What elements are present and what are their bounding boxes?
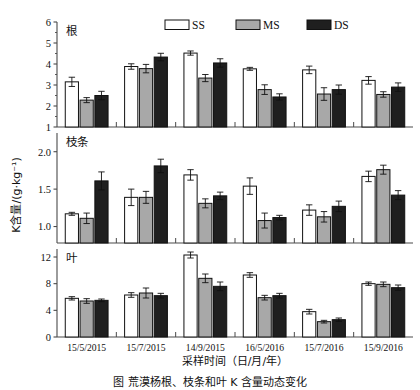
bar-ss	[65, 214, 78, 243]
bar-ms	[317, 322, 330, 337]
y-tick-label: 1.0	[38, 221, 51, 232]
x-axis-label: 采样时间（日/月/年）	[182, 354, 288, 368]
y-tick-label: 0	[46, 332, 51, 343]
bar-ds	[214, 286, 227, 337]
x-tick-label: 15/9/2016	[364, 342, 403, 353]
legend-swatch-ms	[236, 20, 260, 30]
bar-ms	[199, 203, 212, 243]
y-axis-label: K含量/(g·kg⁻¹)	[9, 157, 23, 233]
panel-label: 根	[66, 24, 78, 38]
bar-ms	[139, 69, 152, 127]
bar-ds	[154, 296, 167, 337]
bar-ms	[199, 278, 212, 337]
y-tick-label: 12	[41, 252, 52, 263]
bar-ms	[80, 301, 93, 337]
legend-label-ds: DS	[334, 19, 349, 31]
legend-label-ms: MS	[263, 19, 280, 31]
x-tick-label: 15/7/2015	[127, 342, 166, 353]
bar-ms	[80, 100, 93, 127]
bar-ds	[392, 87, 405, 127]
y-tick-label: 4	[46, 59, 52, 70]
y-tick-label: 1.5	[38, 184, 51, 195]
y-tick-label: 4	[46, 305, 52, 316]
chart-canvas: SSMSDS123456根1.01.52.0枝条04812叶15/5/20151…	[0, 0, 420, 390]
bar-ss	[184, 53, 197, 127]
panel-branch: 1.01.52.0枝条	[38, 133, 413, 243]
bar-ms	[258, 298, 271, 337]
panel-label: 叶	[66, 251, 78, 265]
bar-ms	[377, 94, 390, 127]
bar-ss	[184, 175, 197, 243]
y-tick-label: 8	[46, 278, 51, 289]
bar-ds	[214, 196, 227, 243]
bar-ms	[139, 197, 152, 243]
bar-ss	[243, 275, 256, 337]
bar-ss	[184, 255, 197, 337]
y-tick-label: 3	[46, 80, 51, 91]
bar-ms	[377, 170, 390, 243]
bar-ds	[392, 195, 405, 243]
bar-ss	[65, 82, 78, 127]
y-tick-label: 5	[46, 38, 51, 49]
bar-ss	[125, 295, 138, 337]
x-tick-label: 15/7/2016	[305, 342, 344, 353]
y-tick-label: 2	[46, 101, 51, 112]
bar-ds	[95, 300, 108, 337]
x-tick-label: 16/5/2016	[245, 342, 284, 353]
bar-ss	[303, 70, 316, 127]
bar-ms	[139, 293, 152, 337]
bar-ss	[303, 312, 316, 337]
y-tick-label: 2.0	[38, 147, 51, 158]
bar-ms	[258, 90, 271, 127]
panel-leaf: 04812叶15/5/201515/7/201514/9/201516/5/20…	[41, 249, 414, 353]
bar-ss	[65, 298, 78, 337]
y-tick-label: 6	[46, 17, 51, 28]
bar-ds	[273, 218, 286, 243]
figure-caption: 图 荒漠杨根、枝条和叶 K 含量动态变化	[113, 375, 307, 389]
bar-ds	[332, 320, 345, 337]
bar-ss	[362, 284, 375, 337]
legend-label-ss: SS	[192, 19, 205, 31]
bar-ds	[214, 63, 227, 127]
bar-ds	[273, 97, 286, 127]
bar-ds	[95, 96, 108, 128]
legend-swatch-ds	[307, 20, 331, 30]
bar-ss	[243, 69, 256, 127]
legend: SSMSDS	[165, 19, 349, 31]
bar-ss	[362, 176, 375, 243]
bar-ss	[362, 80, 375, 127]
x-tick-label: 14/9/2015	[186, 342, 225, 353]
bar-ms	[199, 78, 212, 127]
bar-ss	[125, 67, 138, 127]
bar-ds	[392, 288, 405, 337]
y-tick-label: 1	[46, 122, 51, 133]
bar-ds	[332, 90, 345, 127]
legend-swatch-ss	[165, 20, 189, 30]
panel-root: 123456根	[46, 17, 413, 133]
x-tick-label: 15/5/2015	[67, 342, 106, 353]
figure-k-content-dynamics: SSMSDS123456根1.01.52.0枝条04812叶15/5/20151…	[0, 0, 420, 390]
bar-ds	[154, 57, 167, 127]
bar-ms	[377, 284, 390, 337]
bar-ds	[154, 166, 167, 243]
bar-ds	[273, 296, 286, 337]
panel-label: 枝条	[66, 135, 89, 149]
